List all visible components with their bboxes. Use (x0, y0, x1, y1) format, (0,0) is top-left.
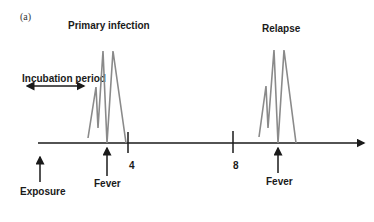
primary-fever-peaks (88, 51, 126, 143)
relapse-fever-peaks (259, 50, 296, 143)
diagram-canvas (0, 0, 374, 222)
